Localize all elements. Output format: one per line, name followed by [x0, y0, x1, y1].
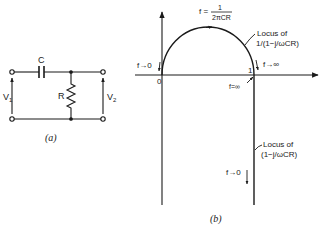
- circle-locus-leader: [245, 34, 255, 45]
- resistor-label: R: [58, 91, 65, 101]
- f-eq-inf-label: f=∞: [229, 83, 240, 90]
- junction-dot-bottom: [70, 118, 73, 121]
- terminal-in-top: [10, 70, 14, 74]
- resistor-zigzag: [67, 72, 75, 119]
- circle-locus-label-1: Locus of: [257, 29, 288, 38]
- peak-label-prefix: f =: [199, 7, 208, 16]
- peak-direction-arrow-icon: [206, 27, 212, 28]
- terminal-out-top: [101, 70, 105, 74]
- v2-label: V2: [107, 92, 117, 103]
- caption-b: (b): [210, 213, 222, 225]
- figure-canvas: C R V1 V2 (a) f = 1 2πCR Locus of 1/(1−j…: [0, 0, 325, 231]
- f-inf-top-label: f→∞: [263, 60, 279, 69]
- peak-label-numerator: 1: [218, 4, 222, 11]
- line-locus-label-2: (1−j/ωCR): [261, 150, 298, 159]
- f-zero-top-label: f→0: [137, 61, 152, 70]
- circle-locus: [162, 27, 254, 75]
- junction-dot-top: [70, 71, 73, 74]
- peak-label-denominator: 2πCR: [212, 14, 231, 21]
- terminal-in-bottom: [10, 117, 14, 121]
- f-zero-bottom-label: f→0: [226, 168, 241, 177]
- capacitor-label: C: [38, 55, 45, 65]
- f-inf-top-arrow-icon: [256, 60, 258, 70]
- circle-locus-label-2: 1/(1−j/ωCR): [256, 39, 299, 48]
- origin-label: 0: [157, 77, 162, 86]
- line-locus-label-1: Locus of: [263, 140, 294, 149]
- f-eq-inf-arrow-icon: [247, 77, 253, 83]
- terminal-out-bottom: [101, 117, 105, 121]
- caption-a: (a): [45, 132, 57, 144]
- f-zero-top-arrow-icon: [159, 62, 160, 71]
- unit-label: 1: [248, 66, 253, 75]
